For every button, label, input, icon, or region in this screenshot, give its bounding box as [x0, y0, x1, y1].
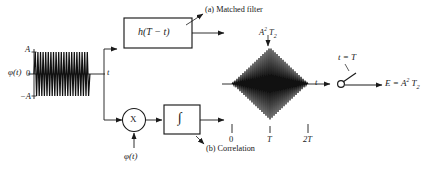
signal-routing-lines — [104, 49, 122, 120]
matched-filter-transfer-label: h(T − t) — [138, 27, 170, 37]
sampler-output-base: E = A — [385, 78, 406, 88]
integrator-label: ∫ — [178, 111, 182, 125]
sampler-switch[interactable] — [338, 64, 382, 87]
matched-filter-caption: (a) Matched filter — [205, 6, 263, 14]
input-signal-plot — [28, 49, 105, 99]
input-axis-top-label: A — [25, 45, 30, 54]
output-tick-label-0: 0 — [229, 135, 233, 144]
output-waveform-trace — [232, 48, 308, 119]
sampler-output-denominator: 2 — [416, 83, 419, 90]
output-tick-label-2T: 2T — [303, 135, 312, 144]
input-axis-zero-label: 0 — [26, 69, 30, 78]
output-peak-label: A2 T2 — [259, 27, 277, 39]
input-signal-label: φ(t) — [8, 68, 21, 77]
input-time-axis-label: t — [107, 68, 109, 77]
input-axis-bottom-label: −A — [20, 92, 31, 101]
output-peak-denominator: 2 — [274, 33, 277, 39]
integrator-block[interactable] — [164, 105, 224, 134]
correlator-reference-input-label: φ(t) — [124, 152, 137, 161]
sampler-switch-label: t = T — [338, 53, 356, 62]
figure-canvas: φ(t) A 0 −A t h(T − t) (a) Matched filte… — [0, 0, 431, 174]
output-time-axis-label: t — [315, 78, 317, 87]
multiplier-node[interactable] — [123, 109, 163, 149]
correlation-caption: (b) Correlation — [206, 145, 255, 153]
correlation-leader-line — [196, 136, 204, 144]
input-waveform-trace — [34, 52, 90, 96]
multiplier-label: X — [130, 115, 137, 124]
sampler-output-label: E = A2 T2 — [385, 78, 420, 90]
output-waveform-plot — [222, 35, 330, 133]
output-tick-label-T: T — [267, 135, 272, 144]
